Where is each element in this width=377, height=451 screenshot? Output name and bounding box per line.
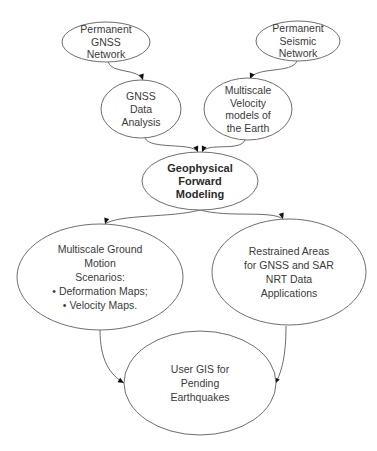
arrowhead-icon <box>139 74 144 80</box>
node-label-line: NRT Data <box>266 273 312 285</box>
node-label-line: for GNSS and SAR <box>244 259 334 271</box>
edge-velocity_models-to-geophysical <box>202 140 245 152</box>
node-label-line: Applications <box>261 287 318 299</box>
edge-geophysical-to-restrained <box>200 210 284 219</box>
node-label-line: User GIS for <box>171 363 230 375</box>
flowchart-diagram: PermanentGNSSNetworkPermanentSeismicNetw… <box>0 0 377 451</box>
node-label-line: Seismic <box>280 35 317 47</box>
node-label-line: Analysis <box>121 116 160 128</box>
node-perm-gnss: PermanentGNSSNetwork <box>62 22 150 62</box>
node-label-line: Scenarios: <box>75 271 125 283</box>
node-geophysical: GeophysicalForwardModeling <box>142 152 258 210</box>
connector-line <box>202 140 245 152</box>
edge-gnss_analysis-to-geophysical <box>145 138 198 152</box>
node-velocity-models: MultiscaleVelocitymodels ofthe Earth <box>204 78 292 140</box>
node-ground-motion: Multiscale GroundMotionScenarios:• Defor… <box>17 224 183 330</box>
node-label-line: Geophysical <box>167 162 232 174</box>
node-label-line: Motion <box>84 257 116 269</box>
node-label-line: • Deformation Maps; <box>52 285 147 297</box>
connector-line <box>145 138 198 152</box>
node-label-line: Permanent <box>80 23 131 35</box>
edge-perm_seismic-to-velocity_models <box>250 61 297 79</box>
node-gnss-analysis: GNSSDataAnalysis <box>101 80 181 138</box>
node-label-line: • Velocity Maps. <box>63 299 137 311</box>
node-restrained: Restrained Areasfor GNSS and SARNRT Data… <box>212 219 366 325</box>
edge-ground_motion-to-user_gis <box>100 330 124 383</box>
node-label-line: Earthquakes <box>171 391 230 403</box>
node-label-line: Data <box>130 103 152 115</box>
node-label-line: Network <box>87 48 126 60</box>
nodes-layer: PermanentGNSSNetworkPermanentSeismicNetw… <box>17 21 366 435</box>
node-label-line: Restrained Areas <box>249 245 330 257</box>
connector-line <box>108 62 143 80</box>
node-label-line: GNSS <box>91 36 121 48</box>
connector-line <box>100 330 124 383</box>
node-label-line: Network <box>279 47 318 59</box>
edge-perm_gnss-to-gnss_analysis <box>108 62 144 80</box>
connector-line <box>105 210 200 224</box>
node-user-gis: User GIS forPendingEarthquakes <box>124 331 276 435</box>
connector-line <box>200 210 283 219</box>
node-perm-seismic: PermanentSeismicNetwork <box>256 21 340 61</box>
connector-line <box>275 326 286 384</box>
edge-geophysical-to-ground_motion <box>104 210 200 224</box>
node-label-line: models of <box>225 109 271 121</box>
node-label-line: Pending <box>181 377 220 389</box>
node-label-line: Modeling <box>176 188 224 200</box>
arrowhead-icon <box>118 378 124 383</box>
node-label-line: Permanent <box>272 22 323 34</box>
node-label-line: Multiscale <box>225 84 272 96</box>
node-label-line: GNSS <box>126 90 156 102</box>
node-label-line: Forward <box>178 175 221 187</box>
edge-restrained-to-user_gis <box>275 326 286 384</box>
node-label-line: Multiscale Ground <box>58 243 143 255</box>
connector-line <box>250 61 297 79</box>
node-label-line: the Earth <box>227 122 270 134</box>
node-label-line: Velocity <box>230 97 267 109</box>
